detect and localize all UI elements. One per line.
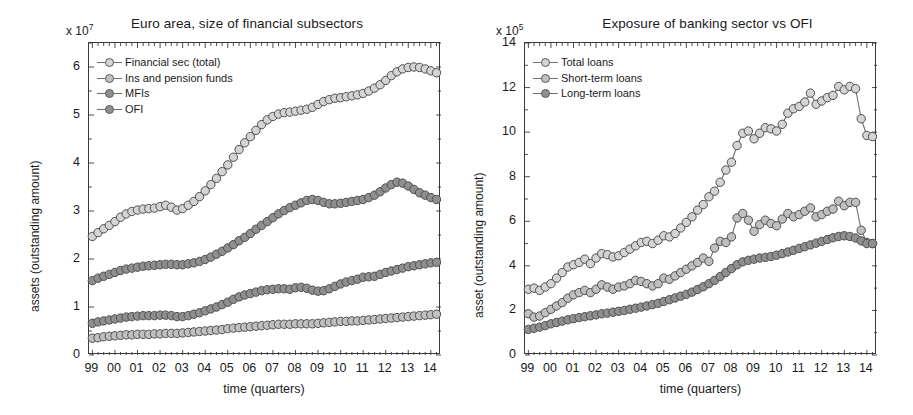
y-tick-label: 0 <box>482 347 516 361</box>
y-tick-label: 4 <box>482 258 516 272</box>
legend-marker-icon <box>533 72 558 84</box>
x-axis-label-left: time (quarters) <box>0 382 492 396</box>
x-tick-label: 07 <box>265 361 279 375</box>
x-tick-label: 05 <box>220 361 234 375</box>
legend-item-label: Long-term loans <box>558 88 641 99</box>
legend-left: Financial sec (total)Ins and pension fun… <box>97 55 233 117</box>
chart-title-right: Exposure of banking sector vs OFI <box>456 16 913 31</box>
y-tick-label: 12 <box>482 80 516 94</box>
x-tick-label: 01 <box>566 361 580 375</box>
legend-marker-icon <box>97 57 122 69</box>
x-tick-label: 08 <box>724 361 738 375</box>
legend-item-label: OFI <box>122 104 143 115</box>
legend-item-label: Financial sec (total) <box>122 57 220 68</box>
legend-item[interactable]: Long-term loans <box>533 86 642 102</box>
legend-item[interactable]: Financial sec (total) <box>97 55 233 71</box>
x-tick-label: 11 <box>356 361 369 375</box>
y-tick-label: 10 <box>482 124 516 138</box>
x-tick-label: 09 <box>746 361 760 375</box>
y-axis-label-left: assets (outstanding amount) <box>28 161 42 312</box>
x-tick-label: 10 <box>333 361 347 375</box>
x-tick-label: 14 <box>423 361 437 375</box>
y-axis-label-right: asset (outstanding amount) <box>472 173 486 318</box>
x-tick-label: 12 <box>814 361 828 375</box>
x-axis-label-right: time (quarters) <box>456 382 913 396</box>
y-tick-label: 6 <box>482 213 516 227</box>
x-tick-label: 00 <box>543 361 557 375</box>
x-tick-label: 03 <box>175 361 189 375</box>
legend-marker-icon <box>97 72 122 84</box>
x-tick-label: 14 <box>859 361 873 375</box>
legend-item[interactable]: MFIs <box>97 86 233 102</box>
legend-item-label: Total loans <box>558 57 614 68</box>
y-tick-label: 5 <box>46 107 80 121</box>
legend-item[interactable]: OFI <box>97 102 233 118</box>
legend-item-label: MFIs <box>122 88 149 99</box>
x-tick-label: 13 <box>836 361 850 375</box>
x-tick-label: 07 <box>701 361 715 375</box>
y-tick-label: 6 <box>46 59 80 73</box>
x-tick-label: 02 <box>588 361 602 375</box>
y-tick-label: 14 <box>482 35 516 49</box>
legend-right: Total loansShort-term loansLong-term loa… <box>533 55 642 102</box>
x-tick-label: 12 <box>378 361 392 375</box>
series-long-term-loans <box>524 232 877 334</box>
x-tick-label: 02 <box>152 361 166 375</box>
legend-item-label: Ins and pension funds <box>122 73 233 84</box>
y-tick-label: 8 <box>482 169 516 183</box>
legend-item[interactable]: Ins and pension funds <box>97 71 233 87</box>
chart-panel-right: Exposure of banking sector vs OFI x 105 … <box>456 0 913 415</box>
x-tick-label: 06 <box>242 361 256 375</box>
x-tick-label: 99 <box>84 361 98 375</box>
x-tick-label: 05 <box>656 361 670 375</box>
legend-item-label: Short-term loans <box>558 73 642 84</box>
chart-panel-left: Euro area, size of financial subsectors … <box>0 0 456 415</box>
x-tick-label: 06 <box>678 361 692 375</box>
y-tick-label: 4 <box>46 155 80 169</box>
x-tick-label: 03 <box>611 361 625 375</box>
legend-item[interactable]: Total loans <box>533 55 642 71</box>
y-tick-label: 2 <box>46 251 80 265</box>
legend-marker-icon <box>97 88 122 100</box>
x-tick-label: 00 <box>107 361 121 375</box>
y-tick-label: 1 <box>46 299 80 313</box>
x-tick-label: 13 <box>400 361 414 375</box>
x-tick-label: 04 <box>633 361 647 375</box>
figure-container: Euro area, size of financial subsectors … <box>0 0 913 415</box>
x-tick-label: 04 <box>197 361 211 375</box>
y-tick-label: 3 <box>46 203 80 217</box>
x-tick-label: 99 <box>520 361 534 375</box>
x-tick-label: 10 <box>769 361 783 375</box>
y-tick-label: 2 <box>482 302 516 316</box>
x-tick-label: 11 <box>792 361 805 375</box>
y-tick-label: 0 <box>46 347 80 361</box>
x-tick-label: 09 <box>310 361 324 375</box>
x-tick-label: 08 <box>288 361 302 375</box>
legend-marker-icon <box>533 88 558 100</box>
legend-marker-icon <box>533 57 558 69</box>
x-tick-label: 01 <box>130 361 144 375</box>
legend-item[interactable]: Short-term loans <box>533 71 642 87</box>
legend-marker-icon <box>97 103 122 115</box>
y-exponent-label-left: x 107 <box>66 22 93 38</box>
